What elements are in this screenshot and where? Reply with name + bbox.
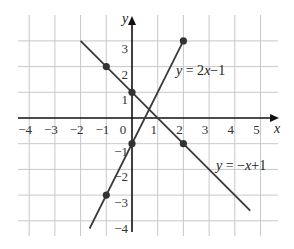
y-axis-arrow-icon xyxy=(128,16,136,25)
y-axis-label: y xyxy=(120,11,129,26)
x-tick-label: 0 xyxy=(120,122,127,137)
x-tick-label: 1 xyxy=(150,122,157,137)
y-tick-label: 3 xyxy=(122,41,129,56)
data-point xyxy=(103,192,110,199)
data-point xyxy=(128,140,135,147)
x-tick-label: 3 xyxy=(202,122,209,137)
x-tick-label: −4 xyxy=(18,122,32,137)
y-tick-label: 2 xyxy=(122,67,129,82)
data-point xyxy=(180,37,187,44)
y-tick-label: −3 xyxy=(114,195,128,210)
equation-label-line2: y = −x+1 xyxy=(214,158,266,173)
y-tick-label: −4 xyxy=(114,221,128,236)
x-tick-label: 2 xyxy=(176,122,183,137)
x-tick-label: 5 xyxy=(253,122,260,137)
line-graph: xy−4−3−2−1012345321−1−2−3−4 y = 2x−1y = … xyxy=(0,0,294,249)
x-tick-label: −3 xyxy=(44,122,58,137)
y-tick-label: 1 xyxy=(122,92,129,107)
x-axis-label: x xyxy=(273,121,281,136)
data-point xyxy=(103,63,110,70)
x-tick-label: 4 xyxy=(228,122,235,137)
x-tick-label: −2 xyxy=(70,122,84,137)
data-point xyxy=(180,140,187,147)
data-point xyxy=(128,89,135,96)
equation-label-line1: y = 2x−1 xyxy=(174,63,225,78)
x-tick-label: −1 xyxy=(95,122,109,137)
